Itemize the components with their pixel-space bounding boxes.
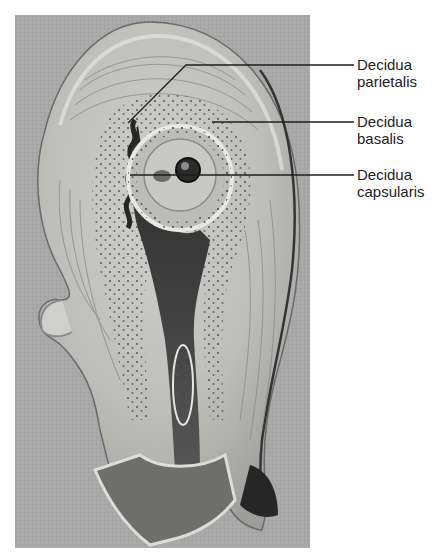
label-line1: Decidua (357, 56, 417, 73)
label-line2: capsularis (357, 183, 425, 200)
label-line2: basalis (357, 130, 412, 147)
yolk-sac (153, 170, 171, 182)
label-decidua-basalis: Decidua basalis (357, 113, 412, 147)
embryo (176, 158, 200, 182)
cervical-plug (173, 345, 193, 425)
label-line1: Decidua (357, 166, 425, 183)
label-decidua-capsularis: Decidua capsularis (357, 166, 425, 200)
label-line1: Decidua (357, 113, 412, 130)
label-decidua-parietalis: Decidua parietalis (357, 56, 417, 90)
embryo-highlight (181, 162, 189, 170)
label-line2: parietalis (357, 73, 417, 90)
